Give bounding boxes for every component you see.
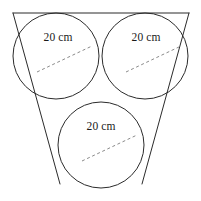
bottom-center-circle	[58, 102, 144, 188]
geometry-canvas: 20 cm 20 cm 20 cm	[0, 0, 201, 201]
top-left-radius-dash	[37, 46, 92, 72]
bottom-center-radius-dash	[82, 135, 137, 161]
geometry-figure: 20 cm 20 cm 20 cm	[0, 0, 201, 201]
bottom-center-dimension-label: 20 cm	[87, 120, 116, 132]
top-right-radius-dash	[126, 46, 181, 72]
top-right-circle	[102, 13, 188, 99]
top-left-dimension-label: 20 cm	[44, 31, 73, 43]
top-right-dimension-label: 20 cm	[132, 31, 161, 43]
top-left-circle	[13, 13, 99, 99]
